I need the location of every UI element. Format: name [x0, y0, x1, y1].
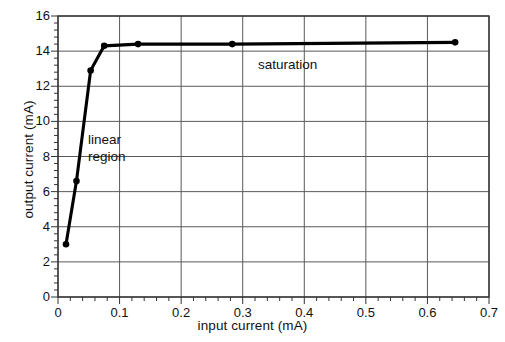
data-point — [135, 41, 142, 48]
annotation-saturation: saturation — [258, 56, 317, 73]
data-point — [87, 67, 94, 74]
x-tick-label: 0.7 — [469, 305, 505, 320]
y-tick-label: 4 — [14, 219, 50, 234]
y-tick-label: 6 — [14, 184, 50, 199]
x-tick-label: 0.2 — [161, 305, 201, 320]
y-tick-label: 10 — [14, 113, 50, 128]
y-tick-label: 14 — [14, 43, 50, 58]
data-point — [229, 41, 236, 48]
x-tick-label: 0.3 — [223, 305, 263, 320]
y-tick-label: 0 — [14, 289, 50, 304]
data-point — [101, 43, 108, 50]
data-point — [63, 241, 70, 248]
annotation-line: linear — [88, 131, 126, 148]
chart-figure: output current (mA) input current (mA) 0… — [0, 0, 505, 342]
y-tick-label: 8 — [14, 149, 50, 164]
x-axis-title: input current (mA) — [0, 318, 505, 333]
annotation-line: saturation — [258, 56, 317, 73]
data-point — [452, 39, 459, 46]
annotation-line: region — [88, 148, 126, 165]
plot-canvas — [0, 0, 505, 342]
x-tick-label: 0.4 — [284, 305, 324, 320]
y-tick-label: 16 — [14, 8, 50, 23]
x-tick-label: 0 — [38, 305, 78, 320]
data-point — [73, 178, 80, 185]
y-tick-label: 12 — [14, 78, 50, 93]
annotation-linear-region: linearregion — [88, 131, 126, 165]
x-tick-label: 0.6 — [407, 305, 447, 320]
x-tick-label: 0.5 — [346, 305, 386, 320]
x-tick-label: 0.1 — [100, 305, 140, 320]
y-tick-label: 2 — [14, 254, 50, 269]
